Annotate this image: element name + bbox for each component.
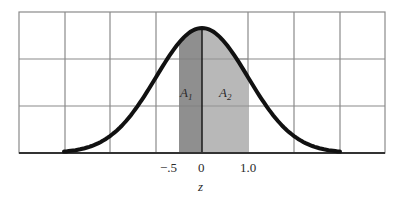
tick-label-neg-half: −.5 xyxy=(160,160,177,175)
normal-curve-diagram: A1 A2 −.5 0 1.0 z xyxy=(0,0,399,202)
tick-label-one: 1.0 xyxy=(240,160,256,175)
axis-label-z: z xyxy=(197,179,203,194)
tick-label-zero: 0 xyxy=(198,160,205,175)
